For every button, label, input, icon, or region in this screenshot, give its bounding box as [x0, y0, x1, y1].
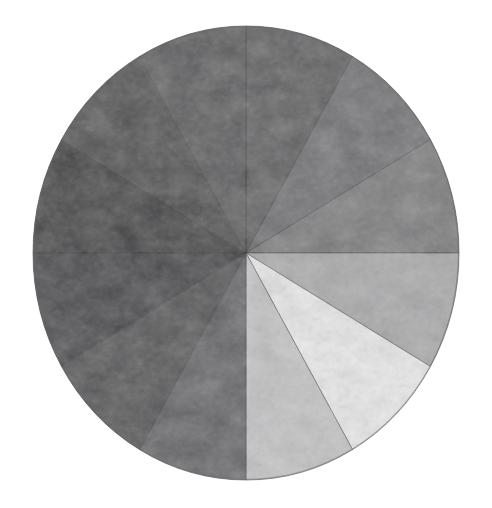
- value-wheel-canvas: [0, 0, 492, 508]
- grayscale-value-wheel-figure: A hand-painted twelve-segment circular v…: [0, 0, 492, 508]
- wedge-group: [33, 26, 459, 480]
